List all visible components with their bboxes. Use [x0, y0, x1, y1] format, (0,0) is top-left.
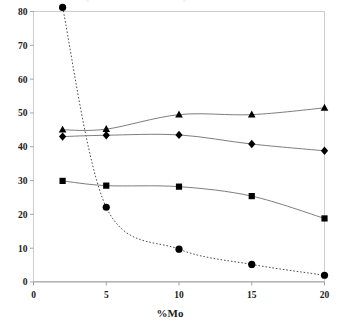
chart-container: 01020304050607080 05101520 %Mo	[0, 0, 340, 328]
data-point-square	[321, 215, 327, 221]
x-tick-label: 15	[247, 290, 257, 300]
line-chart: 01020304050607080 05101520 %Mo	[0, 0, 340, 328]
x-tick-label: 0	[31, 290, 36, 300]
data-point-square	[249, 193, 255, 199]
data-point-circle	[321, 272, 328, 279]
data-point-circle	[103, 204, 110, 211]
x-tick-label: 5	[104, 290, 109, 300]
x-tick-label: 10	[174, 290, 184, 300]
y-tick-label: 10	[18, 244, 28, 254]
data-point-square	[103, 183, 109, 189]
data-point-square	[60, 178, 66, 184]
y-tick-label: 30	[18, 176, 28, 186]
x-tick-label: 20	[320, 290, 330, 300]
y-tick-label: 80	[18, 7, 28, 17]
data-point-circle	[175, 246, 182, 253]
y-tick-label: 40	[18, 142, 28, 152]
chart-background	[0, 0, 340, 328]
y-tick-label: 60	[18, 75, 28, 85]
data-point-circle	[59, 4, 66, 11]
y-tick-label: 70	[18, 41, 28, 51]
y-tick-label: 50	[18, 108, 28, 118]
x-axis-title: %Mo	[157, 307, 184, 319]
data-point-square	[176, 184, 182, 190]
y-tick-label: 0	[23, 277, 28, 287]
y-axis-tick-labels: 01020304050607080	[18, 7, 28, 288]
data-point-circle	[248, 261, 255, 268]
y-tick-label: 20	[18, 210, 28, 220]
